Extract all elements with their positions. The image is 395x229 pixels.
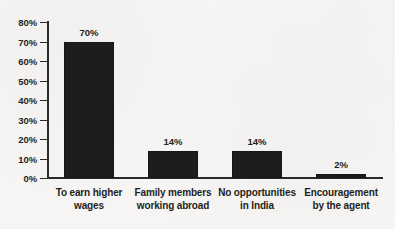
y-tick-mark xyxy=(40,42,47,43)
category-label-line: Encouragement xyxy=(296,186,386,199)
y-tick-mark xyxy=(40,22,47,23)
y-tick-mark xyxy=(40,81,47,82)
y-tick-label: 50% xyxy=(18,75,37,86)
y-tick-mark xyxy=(40,120,47,121)
category-label-line: working abroad xyxy=(128,199,218,212)
category-label-line: To earn higher xyxy=(44,186,134,199)
category-label: Encouragementby the agent xyxy=(296,186,386,212)
y-tick-label: 60% xyxy=(18,56,37,67)
bar-value-label: 2% xyxy=(334,159,348,170)
bar: 2% xyxy=(316,174,366,178)
bar: 70% xyxy=(64,42,114,179)
category-label-line: by the agent xyxy=(296,199,386,212)
y-tick-label: 0% xyxy=(23,173,37,184)
category-label-line: wages xyxy=(44,199,134,212)
bar-chart: 0%10%20%30%40%50%60%70%80% 70%14%14%2% T… xyxy=(0,0,395,229)
bar: 14% xyxy=(148,151,198,178)
bar-value-label: 70% xyxy=(79,27,98,38)
y-tick-label: 70% xyxy=(18,36,37,47)
y-tick-mark xyxy=(40,178,47,179)
bar: 14% xyxy=(232,151,282,178)
category-label-line: No opportunities xyxy=(212,186,302,199)
y-tick-mark xyxy=(40,100,47,101)
y-tick-label: 40% xyxy=(18,95,37,106)
y-tick-label: 80% xyxy=(18,17,37,28)
plot-area: 0%10%20%30%40%50%60%70%80% 70%14%14%2% xyxy=(47,22,383,178)
y-tick-mark xyxy=(40,159,47,160)
y-tick-label: 30% xyxy=(18,114,37,125)
category-label: To earn higherwages xyxy=(44,186,134,212)
y-tick-label: 10% xyxy=(18,153,37,164)
y-tick-mark xyxy=(40,61,47,62)
category-label: No opportunitiesin India xyxy=(212,186,302,212)
bar-value-label: 14% xyxy=(247,136,266,147)
category-label-line: Family members xyxy=(128,186,218,199)
y-tick-label: 20% xyxy=(18,134,37,145)
category-label-line: in India xyxy=(212,199,302,212)
category-label: Family membersworking abroad xyxy=(128,186,218,212)
bar-value-label: 14% xyxy=(163,136,182,147)
y-tick-mark xyxy=(40,139,47,140)
